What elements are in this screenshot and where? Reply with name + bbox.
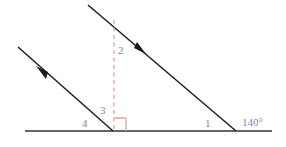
angle-label-4: 4 <box>82 118 88 129</box>
left-parallel-ray <box>18 47 113 131</box>
angle-label-140: 140° <box>242 117 263 128</box>
right-parallel-ray <box>88 5 236 131</box>
angle-label-2: 2 <box>118 45 124 56</box>
angle-label-1: 1 <box>205 118 211 129</box>
geometry-diagram: 2 3 4 1 140° <box>0 0 286 147</box>
angle-label-3: 3 <box>100 105 106 116</box>
right-angle-marker <box>114 118 126 131</box>
arrowhead-right-ray <box>134 42 146 54</box>
